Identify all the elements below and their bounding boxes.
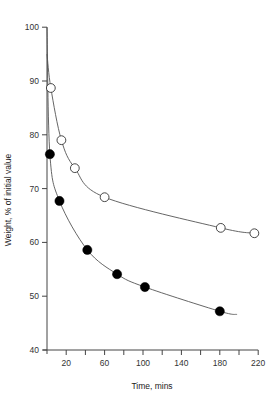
filled-circle-marker — [55, 196, 64, 205]
y-tick-label: 80 — [30, 130, 40, 140]
open-circle-marker — [57, 136, 66, 145]
open-circle-marker — [100, 193, 109, 202]
filled-circle-marker — [83, 245, 92, 254]
x-tick-label: 20 — [61, 358, 71, 368]
data-markers — [45, 84, 258, 316]
y-tick-label: 50 — [30, 291, 40, 301]
open-circle-marker — [216, 223, 225, 232]
axes: 4050607080901002060100140180220 — [25, 22, 266, 368]
filled-circle-marker — [215, 307, 224, 316]
x-axis-title: Time, mins — [131, 381, 172, 391]
x-tick-label: 60 — [100, 358, 110, 368]
x-tick-label: 140 — [174, 358, 188, 368]
filled-circle-marker — [140, 282, 149, 291]
filled-circle-marker — [112, 270, 121, 279]
y-tick-label: 60 — [30, 237, 40, 247]
filled-circle-marker — [45, 150, 54, 159]
y-axis-title: Weight, % of initial value — [3, 154, 13, 247]
y-tick-label: 90 — [30, 76, 40, 86]
weight-loss-chart: 4050607080901002060100140180220 Time, mi… — [0, 0, 280, 402]
y-tick-label: 70 — [30, 184, 40, 194]
x-tick-label: 100 — [136, 358, 150, 368]
open-circle-marker — [70, 164, 79, 173]
x-tick-label: 220 — [251, 358, 265, 368]
x-tick-label: 180 — [213, 358, 227, 368]
open-circles-fit-curve — [47, 54, 254, 233]
y-tick-label: 100 — [25, 22, 39, 32]
open-circle-marker — [46, 84, 55, 93]
open-circle-marker — [250, 229, 259, 238]
y-tick-label: 40 — [30, 345, 40, 355]
